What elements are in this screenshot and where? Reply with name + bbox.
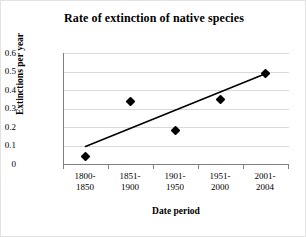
y-tick-label-0: 0 bbox=[0, 160, 16, 169]
x-tick-1 bbox=[108, 164, 109, 169]
x-category-line2: 1850 bbox=[62, 182, 108, 193]
x-category-label-1851-1900: 1851- 1900 bbox=[107, 171, 153, 193]
x-category-line2: 1900 bbox=[107, 182, 153, 193]
gridline-0.3 bbox=[64, 109, 289, 110]
plot-area bbox=[63, 53, 289, 165]
gridline-0.5 bbox=[64, 72, 289, 73]
x-category-line1: 1901- bbox=[152, 171, 198, 182]
x-category-line2: 2000 bbox=[197, 182, 243, 193]
x-tick-0 bbox=[63, 164, 64, 169]
chart-screenshot: Rate of extinction of native species Ext… bbox=[0, 0, 306, 237]
gridline-0.6 bbox=[64, 53, 289, 54]
y-tick-label-0.4: 0.4 bbox=[0, 86, 16, 95]
x-tick-5 bbox=[288, 164, 289, 169]
x-axis-title: Date period bbox=[63, 206, 289, 216]
y-tick-label-0.1: 0.1 bbox=[0, 141, 16, 150]
x-category-line1: 1851- bbox=[107, 171, 153, 182]
x-category-label-1951-2000: 1951- 2000 bbox=[197, 171, 243, 193]
y-axis-title: Extinctions per year bbox=[15, 19, 25, 129]
x-category-line2: 1950 bbox=[152, 182, 198, 193]
x-category-line1: 2001- bbox=[242, 171, 288, 182]
x-category-line1: 1800- bbox=[62, 171, 108, 182]
x-tick-4 bbox=[243, 164, 244, 169]
gridline-0.1 bbox=[64, 146, 289, 147]
x-category-line2: 2004 bbox=[242, 182, 288, 193]
y-tick-label-0.6: 0.6 bbox=[0, 49, 16, 58]
x-category-label-2001-2004: 2001- 2004 bbox=[242, 171, 288, 193]
x-category-label-1800-1850: 1800- 1850 bbox=[62, 171, 108, 193]
x-tick-3 bbox=[198, 164, 199, 169]
x-tick-2 bbox=[153, 164, 154, 169]
chart-title: Rate of extinction of native species bbox=[1, 11, 306, 25]
x-category-line1: 1951- bbox=[197, 171, 243, 182]
y-tick-label-0.5: 0.5 bbox=[0, 67, 16, 76]
gridline-0.4 bbox=[64, 90, 289, 91]
plot-inner bbox=[64, 53, 289, 164]
x-category-label-1901-1950: 1901- 1950 bbox=[152, 171, 198, 193]
y-tick-label-0.2: 0.2 bbox=[0, 123, 16, 132]
y-tick-label-0.3: 0.3 bbox=[0, 104, 16, 113]
